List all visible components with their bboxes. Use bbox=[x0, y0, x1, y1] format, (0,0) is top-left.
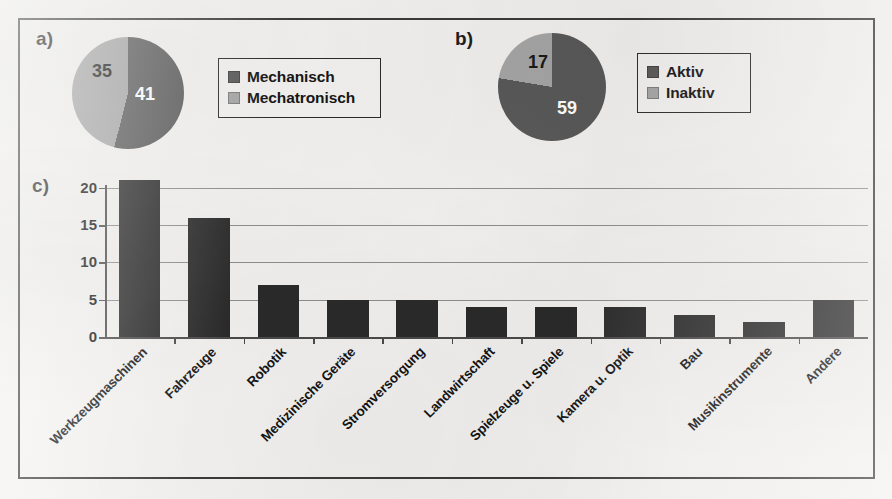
pie-a-value-mechatronisch: 35 bbox=[92, 61, 112, 82]
y-axis-tick-label: 20 bbox=[57, 179, 97, 196]
pie-b-value-aktiv: 59 bbox=[557, 98, 577, 119]
x-axis-tick-mark bbox=[799, 337, 801, 344]
y-axis-tick-label: 5 bbox=[57, 291, 97, 308]
x-axis-tick-mark bbox=[729, 337, 731, 344]
x-axis-tick-mark bbox=[521, 337, 523, 344]
bar bbox=[743, 322, 785, 337]
figure-page: a) b) c) 41 35 Mechanisch Mechatronisch … bbox=[0, 0, 892, 499]
bar bbox=[188, 218, 230, 337]
bar-chart-c: 05101520 WerkzeugmaschinenFahrzeugeRobot… bbox=[0, 0, 892, 499]
gridline bbox=[105, 188, 868, 189]
pie-b-value-inaktiv: 17 bbox=[528, 52, 548, 73]
x-axis-tick-label: Andere bbox=[802, 344, 845, 387]
x-axis-tick-mark bbox=[244, 337, 246, 344]
bar bbox=[535, 307, 577, 337]
y-axis-tick-label: 10 bbox=[57, 253, 97, 270]
bar bbox=[119, 180, 161, 337]
x-axis-tick-label: Landwirtschaft bbox=[421, 344, 498, 421]
bar bbox=[327, 300, 369, 337]
y-axis-tick-label: 0 bbox=[57, 328, 97, 345]
x-axis-tick-mark bbox=[452, 337, 454, 344]
bar bbox=[604, 307, 646, 337]
bar bbox=[466, 307, 508, 337]
bar bbox=[258, 285, 300, 337]
x-axis-tick-mark bbox=[382, 337, 384, 344]
x-axis-line bbox=[105, 337, 868, 339]
pie-a-value-mechanisch: 41 bbox=[135, 84, 155, 105]
x-axis-tick-label: Fahrzeuge bbox=[162, 344, 219, 401]
x-axis-tick-mark bbox=[660, 337, 662, 344]
x-axis-tick-label: Robotik bbox=[244, 344, 289, 389]
bar bbox=[396, 300, 438, 337]
x-axis-tick-mark bbox=[313, 337, 315, 344]
x-axis-tick-label: Bau bbox=[677, 344, 705, 372]
y-axis-tick-label: 15 bbox=[57, 216, 97, 233]
bar bbox=[674, 315, 716, 337]
x-axis-tick-mark bbox=[174, 337, 176, 344]
x-axis-tick-label: Werkzeugmaschinen bbox=[47, 344, 150, 447]
y-axis-line bbox=[105, 185, 107, 338]
bar bbox=[813, 300, 855, 337]
x-axis-tick-mark bbox=[591, 337, 593, 344]
x-axis-tick-label: Kamera u. Optik bbox=[554, 344, 636, 426]
